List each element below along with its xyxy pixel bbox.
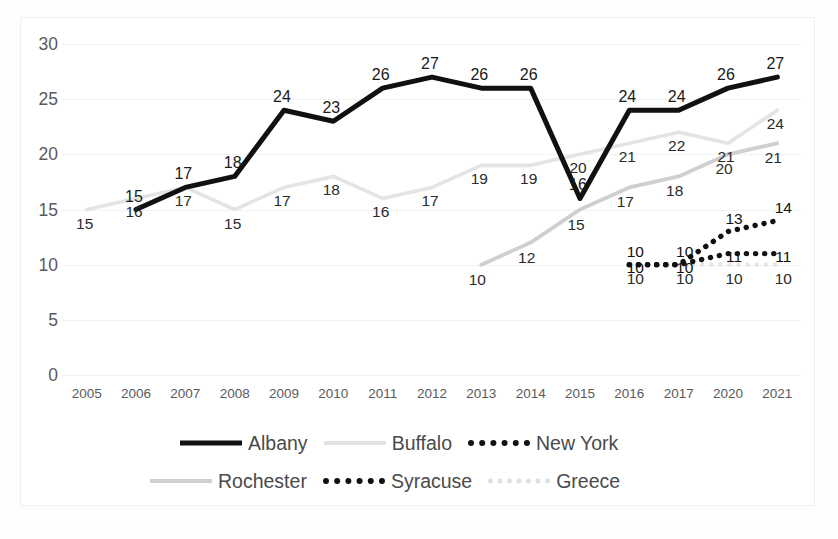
legend-swatch-icon [150,475,212,487]
data-label: 13 [725,211,742,227]
data-label: 15 [76,216,93,232]
legend-label: Rochester [218,470,307,493]
data-label: 19 [471,172,488,188]
x-axis-labels: 2005200620072008200920102011201220132014… [62,386,802,410]
legend-label: Albany [248,432,308,455]
legend-item-syracuse[interactable]: Syracuse [323,470,472,493]
data-label: 16 [125,205,142,221]
data-label: 10 [627,260,644,276]
legend-label: Syracuse [391,470,472,493]
data-label: 15 [224,216,241,232]
y-axis-tick: 20 [22,144,58,165]
legend-swatch-icon [488,475,550,487]
legend-swatch-icon [324,437,386,449]
data-label: 14 [775,200,792,216]
data-label: 27 [766,56,784,72]
y-axis-tick: 30 [22,34,58,55]
legend-item-buffalo[interactable]: Buffalo [324,432,452,455]
data-label: 10 [676,260,693,276]
data-label: 16 [372,205,389,221]
x-axis-tick: 2010 [318,386,348,401]
data-label: 21 [765,151,782,167]
data-label: 24 [767,116,784,132]
y-axis-tick: 10 [22,254,58,275]
y-axis-tick: 25 [22,89,58,110]
data-label: 17 [175,194,192,210]
x-axis-tick: 2012 [417,386,447,401]
data-label: 19 [520,172,537,188]
x-axis-tick: 2011 [368,386,397,401]
x-axis-tick: 2009 [269,386,299,401]
x-axis-tick: 2017 [664,386,694,401]
x-axis-tick: 2014 [516,386,546,401]
data-label: 24 [273,89,291,105]
data-label: 22 [668,139,685,155]
data-label: 27 [421,56,439,72]
x-axis-tick: 2008 [220,386,250,401]
data-label: 15 [125,189,143,205]
legend-item-new-york[interactable]: New York [468,432,618,455]
data-label: 24 [668,89,686,105]
y-axis-tick: 15 [22,199,58,220]
legend-label: Buffalo [392,432,452,455]
data-label: 10 [627,244,644,260]
x-axis-tick: 2013 [466,386,496,401]
data-label: 18 [224,155,242,171]
data-label: 26 [470,67,488,83]
chart-legend: AlbanyBuffaloNew York RochesterSyracuseG… [150,424,680,500]
data-label: 26 [520,67,538,83]
data-label: 21 [619,150,636,166]
plot-area: 1010101010101111151617151718161719192021… [62,44,802,375]
line-chart: 302520151050 101010101010111115161715171… [0,0,838,539]
gridline [62,375,802,376]
y-axis-tick: 0 [22,365,58,386]
legend-item-rochester[interactable]: Rochester [150,470,307,493]
data-label: 24 [618,89,636,105]
legend-swatch-icon [468,437,530,449]
data-label: 26 [372,67,390,83]
data-label: 11 [726,249,742,265]
data-label: 18 [323,183,340,199]
x-axis-tick: 2007 [170,386,200,401]
y-axis-tick: 5 [22,309,58,330]
data-label: 20 [715,162,732,178]
legend-row: RochesterSyracuseGreece [150,462,680,500]
data-label: 10 [775,271,792,287]
x-axis-tick: 2006 [121,386,151,401]
data-label: 10 [725,271,742,287]
data-label: 17 [421,194,438,210]
legend-label: Greece [556,470,620,493]
x-axis-tick: 2021 [762,386,792,401]
legend-swatch-icon [323,475,385,487]
data-label: 17 [617,195,634,211]
data-label: 26 [717,67,735,83]
data-label: 16 [569,177,587,193]
legend-label: New York [536,432,618,455]
data-label: 18 [666,184,683,200]
x-axis-tick: 2005 [72,386,102,401]
legend-item-greece[interactable]: Greece [488,470,620,493]
legend-swatch-icon [180,437,242,449]
legend-row: AlbanyBuffaloNew York [150,424,680,462]
legend-item-albany[interactable]: Albany [180,432,308,455]
data-label: 10 [469,272,486,288]
data-label: 17 [174,166,192,182]
data-label: 11 [775,249,791,265]
x-axis-tick: 2015 [565,386,595,401]
data-label: 15 [567,217,584,233]
data-label: 12 [518,250,535,266]
x-axis-tick: 2016 [614,386,644,401]
data-label: 20 [569,161,586,177]
data-label: 10 [676,244,693,260]
data-label: 17 [273,194,290,210]
x-axis-tick: 2020 [713,386,743,401]
data-label: 23 [322,100,340,116]
